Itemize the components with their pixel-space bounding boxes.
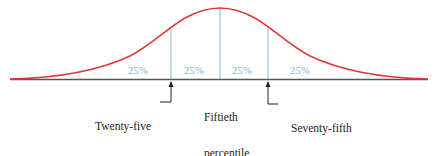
normal-curve-figure: 25% 25% 25% 25% Twenty-five percentile a… — [0, 0, 438, 156]
label-line: Fiftieth — [204, 111, 249, 123]
label-line: Seventy-fifth — [291, 122, 352, 134]
third-quartile-label: Seventy-fifth percentile and third quart… — [291, 98, 352, 156]
label-line: Twenty-five — [95, 120, 152, 132]
segment-2-percent: 25% — [184, 65, 204, 76]
first-quartile-arrowhead-icon — [169, 81, 174, 87]
label-line: percentile — [204, 147, 249, 156]
segment-3-percent: 25% — [232, 65, 252, 76]
first-quartile-label: Twenty-five percentile and first quartil… — [95, 96, 152, 156]
third-quartile-arrowhead-icon — [266, 81, 271, 87]
median-label: Fiftieth percentile and second quartile — [204, 87, 249, 156]
segment-4-percent: 25% — [290, 65, 310, 76]
bell-curve — [10, 8, 428, 79]
segment-1-percent: 25% — [128, 65, 148, 76]
